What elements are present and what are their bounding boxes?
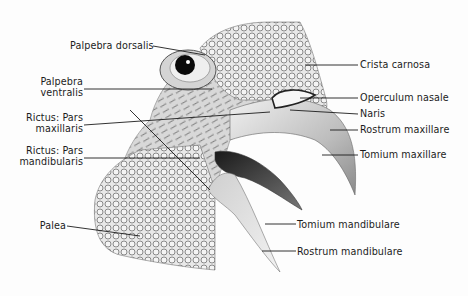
label-rictus-pars-mandibularis: Rictus: Parsmandibularis: [10, 145, 83, 167]
label-naris: Naris: [360, 108, 385, 119]
label-rictus-pars-maxillaris: Rictus: Parsmaxillaris: [10, 112, 83, 134]
label-operculum-nasale: Operculum nasale: [360, 92, 449, 103]
wattle-palea: [94, 145, 215, 270]
label-tomium-mandibulare: Tomium mandibulare: [297, 219, 400, 230]
eye-pupil: [175, 55, 195, 75]
label-palpebra-dorsalis: Palpebra dorsalis: [70, 40, 152, 51]
label-tomium-maxillare: Tomium maxillare: [360, 149, 447, 160]
anatomical-figure: Palpebra dorsalis Palpebraventralis Rict…: [0, 0, 468, 296]
label-palpebra-ventralis: Palpebraventralis: [20, 76, 83, 98]
label-rostrum-mandibulare: Rostrum mandibulare: [297, 246, 403, 257]
label-crista-carnosa: Crista carnosa: [360, 59, 430, 70]
label-rostrum-maxillare: Rostrum maxillare: [360, 124, 449, 135]
label-palea: Palea: [20, 220, 66, 231]
